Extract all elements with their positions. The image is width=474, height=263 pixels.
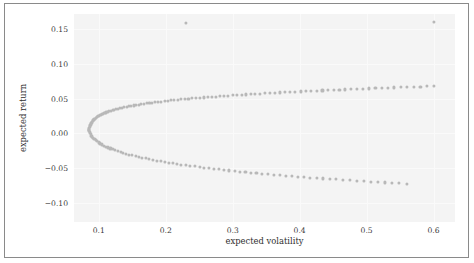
scatter-point: [356, 87, 359, 90]
scatter-point: [223, 168, 226, 171]
x-tick-label: 0.5: [361, 226, 373, 235]
scatter-point: [159, 160, 162, 163]
scatter-point: [326, 89, 329, 92]
scatter-point: [259, 92, 262, 95]
x-tick-label: 0.4: [294, 226, 306, 235]
scatter-point: [362, 87, 365, 90]
scatter-point: [369, 180, 372, 183]
scatter-point: [393, 86, 396, 89]
scatter-point: [391, 181, 394, 184]
scatter-point: [206, 96, 209, 99]
x-tick-label: 0.1: [93, 226, 105, 235]
scatter-point: [344, 88, 347, 91]
scatter-point: [203, 166, 206, 169]
scatter-point: [240, 93, 243, 96]
scatter-point: [176, 162, 179, 165]
scatter-point: [245, 93, 248, 96]
scatter-points: [74, 14, 455, 222]
scatter-point: [289, 90, 292, 93]
scatter-point: [303, 176, 306, 179]
scatter-point: [189, 164, 192, 167]
scatter-point: [376, 180, 379, 183]
scatter-point: [202, 96, 205, 99]
scatter-point: [335, 178, 338, 181]
scatter-point: [185, 21, 188, 24]
scatter-point: [231, 94, 234, 97]
scatter-point: [191, 97, 194, 100]
chart-figure: −0.10−0.050.000.050.100.15 0.10.20.30.40…: [0, 0, 474, 263]
scatter-point: [218, 168, 221, 171]
y-tick-label: 0.10: [51, 59, 68, 68]
scatter-point: [255, 172, 258, 175]
scatter-point: [328, 177, 331, 180]
scatter-point: [368, 87, 371, 90]
scatter-point: [309, 176, 312, 179]
scatter-point: [214, 95, 217, 98]
scatter-point: [261, 172, 264, 175]
scatter-point: [405, 182, 408, 185]
scatter-point: [348, 179, 351, 182]
scatter-point: [227, 94, 230, 97]
scatter-point: [213, 167, 216, 170]
x-tick-label: 0.6: [428, 226, 440, 235]
scatter-point: [284, 174, 287, 177]
scatter-point: [144, 157, 147, 160]
scatter-point: [296, 175, 299, 178]
scatter-point: [249, 171, 252, 174]
scatter-point: [432, 85, 435, 88]
scatter-point: [355, 179, 358, 182]
y-tick-label: −0.05: [45, 163, 68, 172]
scatter-point: [272, 173, 275, 176]
x-tick-label: 0.2: [160, 226, 172, 235]
scatter-point: [180, 163, 183, 166]
scatter-point: [249, 93, 252, 96]
scatter-point: [155, 159, 158, 162]
scatter-point: [283, 91, 286, 94]
scatter-point: [222, 94, 225, 97]
scatter-point: [299, 90, 302, 93]
scatter-point: [290, 175, 293, 178]
scatter-point: [322, 177, 325, 180]
scatter-point: [184, 164, 187, 167]
scatter-point: [321, 89, 324, 92]
scatter-point: [268, 91, 271, 94]
y-axis-ticks: −0.10−0.050.000.050.100.15: [38, 14, 68, 222]
scatter-point: [238, 170, 241, 173]
scatter-point: [399, 86, 402, 89]
scatter-point: [278, 174, 281, 177]
scatter-point: [151, 158, 154, 161]
y-axis-label: expected return: [18, 14, 32, 222]
y-tick-label: −0.10: [45, 198, 68, 207]
scatter-point: [233, 169, 236, 172]
y-tick-label: 0.00: [51, 129, 68, 138]
scatter-point: [208, 167, 211, 170]
scatter-point: [198, 165, 201, 168]
x-axis-label: expected volatility: [74, 236, 455, 246]
scatter-point: [419, 85, 422, 88]
scatter-point: [362, 180, 365, 183]
scatter-point: [350, 88, 353, 91]
scatter-point: [273, 91, 276, 94]
scatter-point: [278, 91, 281, 94]
scatter-point: [228, 169, 231, 172]
scatter-point: [263, 92, 266, 95]
scatter-point: [194, 96, 197, 99]
scatter-point: [236, 93, 239, 96]
scatter-point: [315, 89, 318, 92]
scatter-point: [198, 96, 201, 99]
scatter-point: [163, 160, 166, 163]
scatter-point: [304, 90, 307, 93]
scatter-point: [374, 87, 377, 90]
y-tick-label: 0.15: [51, 25, 68, 34]
scatter-point: [167, 161, 170, 164]
scatter-point: [171, 162, 174, 165]
scatter-point: [398, 182, 401, 185]
scatter-point: [266, 173, 269, 176]
x-tick-label: 0.3: [227, 226, 239, 235]
scatter-point: [193, 165, 196, 168]
scatter-point: [386, 86, 389, 89]
scatter-point: [341, 178, 344, 181]
scatter-point: [332, 88, 335, 91]
scatter-point: [254, 92, 257, 95]
scatter-point: [426, 85, 429, 88]
